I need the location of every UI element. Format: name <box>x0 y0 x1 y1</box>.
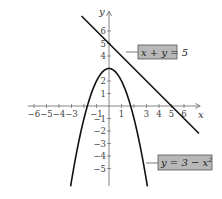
y-tick-label: −1 <box>93 114 106 124</box>
x-tick-label: −3 <box>65 109 78 119</box>
line-label-text: x + y = 5 <box>141 47 188 58</box>
y-tick-label: −5 <box>93 164 106 174</box>
y-axis-label: y <box>98 6 105 17</box>
x-tick-label: −5 <box>40 109 53 119</box>
x-axis-label: x <box>198 109 204 120</box>
y-tick-label: 6 <box>101 26 106 36</box>
line-equation-label: x + y = 5 <box>126 45 188 59</box>
y-tick-label: 2 <box>101 76 106 86</box>
parabola-label-main: y = 3 − x <box>160 157 208 168</box>
parabola-label-text: y = 3 − x2 <box>160 156 212 168</box>
parabola-equation-label: y = 3 − x2 <box>146 155 212 170</box>
graph: −6−5−4−3−113456−5−4−3−2−112456 x y x + y… <box>0 0 222 199</box>
y-tick-label: −4 <box>93 151 106 161</box>
x-tick-label: 4 <box>156 109 161 119</box>
x-tick-label: −4 <box>53 109 66 119</box>
parabola-label-exponent: 2 <box>207 156 212 163</box>
x-tick-label: 3 <box>144 109 149 119</box>
y-tick-label: 1 <box>101 89 106 99</box>
y-tick-label: −2 <box>93 126 106 136</box>
y-tick-label: 4 <box>101 51 106 61</box>
x-tick-label: −6 <box>28 109 41 119</box>
x-tick-label: 1 <box>119 109 124 119</box>
x-tick-label: 5 <box>169 109 174 119</box>
y-tick-label: −3 <box>93 139 106 149</box>
